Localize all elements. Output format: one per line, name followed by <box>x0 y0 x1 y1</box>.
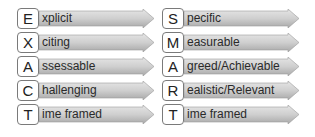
word-label: ssessable <box>42 57 95 76</box>
word-label: easurable <box>187 33 240 52</box>
letter-box: R <box>162 80 184 101</box>
word-label: ime framed <box>42 105 102 124</box>
exact-row-t: T ime framed <box>17 104 155 125</box>
letter-box: M <box>162 32 184 53</box>
letter-box: A <box>17 56 39 77</box>
letter-box: A <box>162 56 184 77</box>
word-label: ealistic/Relevant <box>187 81 274 100</box>
smart-column: S pecific M easurable A greed/Achievable… <box>162 8 300 128</box>
smart-row-a: A greed/Achievable <box>162 56 300 77</box>
exact-row-e: E xplicit <box>17 8 155 29</box>
exact-row-c: C hallenging <box>17 80 155 101</box>
smart-row-s: S pecific <box>162 8 300 29</box>
word-label: hallenging <box>42 81 97 100</box>
letter-box: T <box>162 104 184 125</box>
letter-box: C <box>17 80 39 101</box>
word-label: ime framed <box>187 105 247 124</box>
letter-box: X <box>17 32 39 53</box>
exact-row-a: A ssessable <box>17 56 155 77</box>
word-label: xplicit <box>42 9 72 28</box>
smart-row-r: R ealistic/Relevant <box>162 80 300 101</box>
smart-row-m: M easurable <box>162 32 300 53</box>
word-label: pecific <box>187 9 221 28</box>
word-label: citing <box>42 33 70 52</box>
exact-column: E xplicit X citing A ssessable C halleng… <box>17 8 155 128</box>
exact-row-x: X citing <box>17 32 155 53</box>
smart-row-t: T ime framed <box>162 104 300 125</box>
letter-box: S <box>162 8 184 29</box>
word-label: greed/Achievable <box>187 57 280 76</box>
letter-box: T <box>17 104 39 125</box>
letter-box: E <box>17 8 39 29</box>
